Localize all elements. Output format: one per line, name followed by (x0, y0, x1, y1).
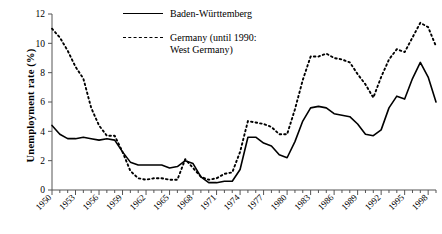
x-axis-tick-label: 1986 (316, 192, 336, 212)
x-axis-tick-label-group: 1965 (151, 192, 171, 212)
x-axis-tick-label: 1971 (198, 192, 218, 212)
x-axis-tick-label-group: 1974 (222, 192, 242, 212)
x-axis-tick-label-group: 1989 (339, 192, 359, 212)
legend-key-dashed-line-icon (120, 32, 166, 44)
legend-label-germany-line2: West Germany) (170, 44, 257, 56)
y-axis-tick-label: 2 (40, 156, 45, 166)
x-axis-tick-label: 1959 (104, 192, 124, 212)
x-axis-tick-label-group: 1950 (34, 192, 54, 212)
x-axis-tick-label: 1953 (57, 192, 77, 212)
x-axis-tick-label: 1950 (34, 192, 54, 212)
x-axis-tick-label-group: 1980 (269, 192, 289, 212)
x-axis-tick-label: 1983 (292, 192, 312, 212)
x-axis-tick-label-group: 1971 (198, 192, 218, 212)
y-axis-tick-label: 8 (40, 68, 45, 78)
x-axis-tick-label: 1998 (410, 192, 430, 212)
x-axis-tick-label: 1992 (363, 192, 383, 212)
series-line-baden-wurttemberg (52, 62, 436, 182)
x-axis-tick-label: 1962 (128, 192, 148, 212)
x-axis-tick-label-group: 1956 (81, 192, 101, 212)
legend-item-germany: Germany (until 1990: West Germany) (120, 32, 257, 55)
y-axis-tick-label: 4 (40, 127, 45, 137)
x-axis-tick-label-group: 1992 (363, 192, 383, 212)
legend-label-germany-line1: Germany (until 1990: (170, 32, 257, 44)
legend-label-germany-wrap: Germany (until 1990: West Germany) (170, 32, 257, 55)
y-axis-tick-label: 12 (36, 9, 46, 19)
x-axis-tick-label: 1995 (386, 192, 406, 212)
x-axis-tick-label: 1968 (175, 192, 195, 212)
x-axis-tick-label-group: 1959 (104, 192, 124, 212)
y-axis-title: Unemployment rate (%) (25, 21, 36, 191)
legend-item-baden-wurttemberg: Baden-Württemberg (120, 8, 257, 20)
x-axis-tick-label: 1977 (245, 192, 265, 212)
x-axis-tick-label: 1956 (81, 192, 101, 212)
x-axis-tick-label: 1965 (151, 192, 171, 212)
x-axis-tick-label-group: 1983 (292, 192, 312, 212)
chart-figure: 0246810121950195319561959196219651968197… (0, 0, 442, 234)
x-axis-tick-label-group: 1998 (410, 192, 430, 212)
x-axis-tick-label-group: 1986 (316, 192, 336, 212)
x-axis-tick-label: 1980 (269, 192, 289, 212)
legend-key-solid-line-icon (120, 8, 166, 20)
x-axis-tick-label: 1989 (339, 192, 359, 212)
x-axis-tick-label: 1974 (222, 192, 242, 212)
y-axis-tick-label: 6 (40, 97, 45, 107)
chart-legend: Baden-Württemberg Germany (until 1990: W… (120, 8, 257, 57)
y-axis-tick-label: 10 (36, 39, 46, 49)
legend-label-baden-wurttemberg: Baden-Württemberg (170, 8, 252, 20)
x-axis-tick-label-group: 1977 (245, 192, 265, 212)
x-axis-tick-label-group: 1995 (386, 192, 406, 212)
x-axis-tick-label-group: 1968 (175, 192, 195, 212)
x-axis-tick-label-group: 1962 (128, 192, 148, 212)
x-axis-tick-label-group: 1953 (57, 192, 77, 212)
